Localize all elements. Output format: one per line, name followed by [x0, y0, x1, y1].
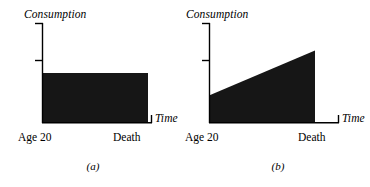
x-axis-start-label-a: Age 20 — [18, 131, 52, 144]
panel-a: Consumption Time Age 20 Death (a) — [0, 0, 185, 187]
x-axis-label-b: Time — [342, 112, 365, 125]
consumption-area-a — [42, 73, 148, 123]
x-axis-start-label-b: Age 20 — [185, 131, 219, 144]
x-axis-label-a: Time — [155, 112, 178, 125]
subcaption-a: (a) — [68, 160, 118, 172]
x-axis-end-label-a: Death — [113, 131, 140, 144]
subcaption-b: (b) — [253, 160, 303, 172]
chart-a-svg — [0, 0, 185, 187]
plot-area-a — [0, 0, 185, 187]
consumption-area-b — [209, 51, 315, 124]
y-axis-label-a: Consumption — [24, 8, 86, 21]
y-axis-label-b: Consumption — [186, 8, 248, 21]
chart-b-svg — [185, 0, 370, 187]
panel-b: Consumption Time Age 20 Death (b) — [185, 0, 370, 187]
x-axis-end-label-b: Death — [298, 131, 325, 144]
plot-area-b — [185, 0, 370, 187]
figure-consumption-paths: Consumption Time Age 20 Death (a) — [0, 0, 370, 187]
